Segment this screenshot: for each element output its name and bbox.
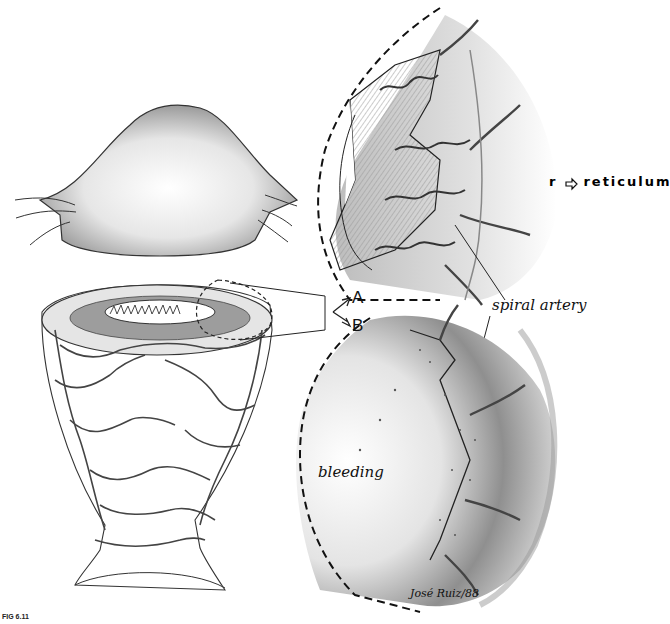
reticulum-legend: r reticulum xyxy=(549,174,670,189)
panel-b-magnified xyxy=(296,305,555,612)
legend-text: reticulum xyxy=(583,174,670,189)
panel-a-magnified xyxy=(318,8,556,305)
bleeding-label: bleeding xyxy=(318,463,384,481)
panel-a-label: A xyxy=(352,288,363,308)
panel-b-label: B xyxy=(352,316,363,336)
uterus-section xyxy=(42,280,272,590)
panel-pointer-arrows xyxy=(333,298,350,326)
legend-symbol: r xyxy=(549,174,557,189)
figure-caption: FIG 6.11 xyxy=(2,613,29,620)
spiral-artery-label: spiral artery xyxy=(492,296,586,314)
uterus-exterior xyxy=(15,105,297,256)
artist-signature: José Ruiz/88 xyxy=(410,587,479,600)
